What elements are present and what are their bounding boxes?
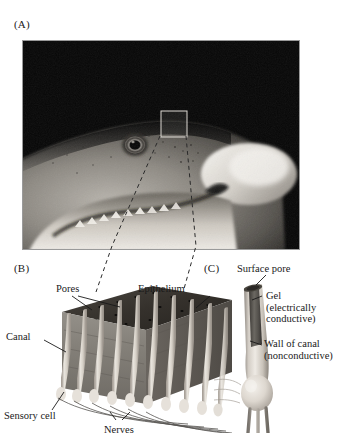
label-surface-pore: Surface pore (237, 263, 290, 275)
single-canal-diagram (0, 0, 343, 433)
label-gel: Gel (electrically conductive) (266, 290, 342, 325)
label-gel-line-3: conductive) (266, 313, 342, 325)
figure-root: (A) (0, 0, 343, 433)
label-gel-line-1: Gel (266, 290, 342, 302)
label-wall-of-canal: Wall of canal (nonconductive) (264, 338, 343, 361)
label-wall-line-1: Wall of canal (264, 338, 343, 350)
label-gel-line-2: (electrically (266, 302, 342, 314)
label-wall-line-2: (nonconductive) (264, 350, 343, 362)
